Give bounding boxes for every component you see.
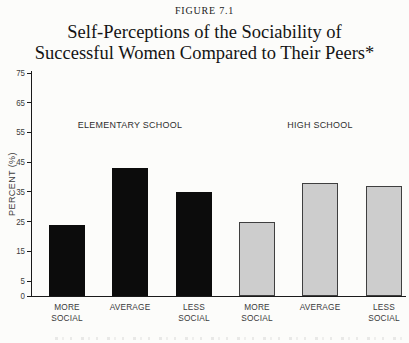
y-tick-mark bbox=[27, 132, 31, 133]
group-label-high-school: HIGH SCHOOL bbox=[287, 119, 353, 130]
figure-7-1-chart: FIGURE 7.1 Self-Perceptions of the Socia… bbox=[0, 0, 409, 343]
y-tick-label: 5 bbox=[9, 276, 25, 286]
y-tick-mark bbox=[27, 281, 31, 282]
footnote-fragment bbox=[55, 337, 405, 340]
bar-high-school-less-social bbox=[366, 186, 402, 296]
y-tick-mark bbox=[27, 251, 31, 252]
y-tick-label: 25 bbox=[9, 217, 25, 227]
bar-high-school-average bbox=[302, 183, 338, 296]
y-tick-label: 35 bbox=[9, 187, 25, 197]
y-tick-label: 75 bbox=[9, 68, 25, 78]
y-tick-mark bbox=[27, 221, 31, 222]
chart-title-line1: Self-Perceptions of the Sociability of bbox=[0, 22, 409, 43]
y-tick-label: 15 bbox=[9, 246, 25, 256]
category-label: AVERAGE bbox=[110, 302, 151, 313]
y-axis-line bbox=[31, 71, 32, 297]
bar-elementary-school-less-social bbox=[176, 192, 212, 296]
y-tick-mark bbox=[27, 191, 31, 192]
category-label: LESS SOCIAL bbox=[368, 302, 399, 323]
y-tick-label: 45 bbox=[9, 157, 25, 167]
bar-elementary-school-average bbox=[112, 168, 148, 296]
y-tick-mark bbox=[27, 102, 31, 103]
group-label-elementary-school: ELEMENTARY SCHOOL bbox=[78, 119, 183, 130]
y-tick-label: 0 bbox=[9, 291, 25, 301]
category-label: MORE SOCIAL bbox=[51, 302, 82, 323]
category-label: MORE SOCIAL bbox=[241, 302, 272, 323]
figure-label: FIGURE 7.1 bbox=[0, 5, 409, 16]
category-label: LESS SOCIAL bbox=[178, 302, 209, 323]
bar-elementary-school-more-social bbox=[49, 225, 85, 296]
y-tick-label: 65 bbox=[9, 98, 25, 108]
y-tick-label: 55 bbox=[9, 127, 25, 137]
category-label: AVERAGE bbox=[300, 302, 341, 313]
y-tick-mark bbox=[27, 296, 31, 297]
y-tick-mark bbox=[27, 162, 31, 163]
bar-high-school-more-social bbox=[239, 222, 275, 296]
y-tick-mark bbox=[27, 73, 31, 74]
x-axis-line bbox=[31, 296, 406, 297]
chart-title-line2: Successful Women Compared to Their Peers… bbox=[0, 43, 409, 64]
